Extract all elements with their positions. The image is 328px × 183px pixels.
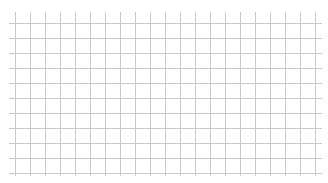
- grid-canvas: [0, 0, 328, 183]
- grid-background: [0, 0, 328, 183]
- vertical-grid-lines: [16, 12, 316, 176]
